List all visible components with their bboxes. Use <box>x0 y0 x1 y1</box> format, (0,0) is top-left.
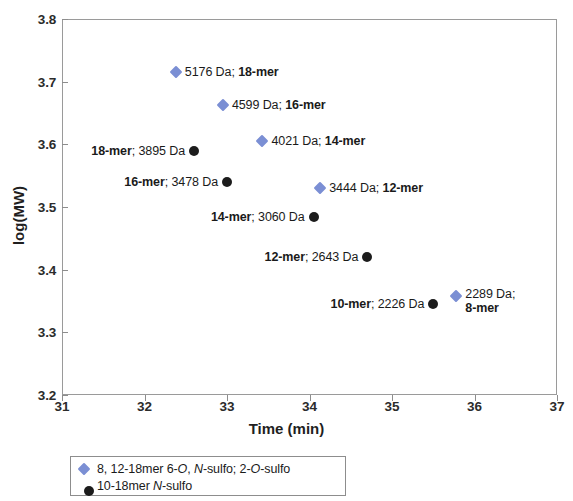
x-tick-label: 34 <box>302 399 317 414</box>
data-point-label: 2289 Da;8-mer <box>465 287 515 315</box>
y-tick-mark <box>62 19 68 20</box>
x-tick-label: 35 <box>384 399 399 414</box>
data-point-label: 4599 Da; 16-mer <box>232 98 326 112</box>
x-axis-title: Time (min) <box>0 420 573 437</box>
legend-entry: 10-18mer N-sulfo <box>71 478 192 494</box>
y-tick-mark <box>62 332 68 333</box>
legend-label: 10-18mer N-sulfo <box>97 479 192 493</box>
data-point-label: 12-mer; 2643 Da <box>265 250 359 264</box>
y-tick-label: 3.5 <box>0 200 56 215</box>
x-tick-mark <box>475 395 476 401</box>
x-tick-mark <box>310 395 311 401</box>
y-tick-mark <box>62 82 68 83</box>
scatter-plot-figure: log(MW) Time (min) 3.83.73.63.53.43.33.2… <box>0 0 573 501</box>
x-tick-mark <box>557 395 558 401</box>
plot-area <box>62 19 557 395</box>
data-point-label: 16-mer; 3478 Da <box>124 175 218 189</box>
y-tick-label: 3.8 <box>0 12 56 27</box>
legend-label: 8, 12-18mer 6-O, N-sulfo; 2-O-sulfo <box>97 462 290 476</box>
x-tick-label: 37 <box>549 399 564 414</box>
legend-entry: 8, 12-18mer 6-O, N-sulfo; 2-O-sulfo <box>71 461 290 477</box>
data-point-circle <box>428 299 438 309</box>
x-tick-label: 32 <box>137 399 152 414</box>
x-tick-mark <box>62 395 63 401</box>
data-point-label: 4021 Da; 14-mer <box>271 134 365 148</box>
x-tick-mark <box>227 395 228 401</box>
x-tick-mark <box>392 395 393 401</box>
data-point-circle <box>362 252 372 262</box>
y-tick-label: 3.7 <box>0 74 56 89</box>
y-tick-label: 3.3 <box>0 325 56 340</box>
chart-legend: 8, 12-18mer 6-O, N-sulfo; 2-O-sulfo10-18… <box>70 456 346 496</box>
y-tick-mark <box>62 144 68 145</box>
data-point-circle <box>189 146 199 156</box>
data-point-circle <box>309 212 319 222</box>
data-point-label: 18-mer; 3895 Da <box>91 144 185 158</box>
y-tick-mark <box>62 270 68 271</box>
data-point-label: 5176 Da; 18-mer <box>185 65 279 79</box>
x-tick-label: 31 <box>54 399 69 414</box>
data-point-label: 10-mer; 2226 Da <box>331 297 425 311</box>
y-tick-label: 3.4 <box>0 262 56 277</box>
x-tick-mark <box>145 395 146 401</box>
x-tick-label: 33 <box>219 399 234 414</box>
legend-marker-diamond <box>71 461 97 477</box>
y-axis-title: log(MW) <box>10 156 27 276</box>
y-tick-label: 3.2 <box>0 388 56 403</box>
legend-marker-circle <box>71 478 97 494</box>
data-point-label: 14-mer; 3060 Da <box>211 210 305 224</box>
data-point-circle <box>222 177 232 187</box>
x-tick-label: 36 <box>467 399 482 414</box>
y-tick-mark <box>62 207 68 208</box>
data-point-label: 3444 Da; 12-mer <box>329 181 423 195</box>
y-tick-label: 3.6 <box>0 137 56 152</box>
